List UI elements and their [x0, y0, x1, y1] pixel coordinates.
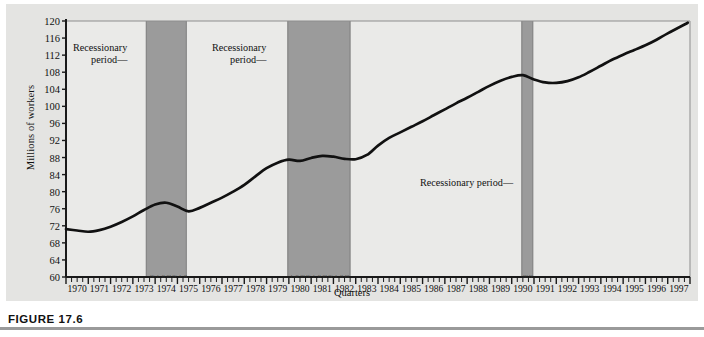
recession-annotation-2-line-2: period— [212, 54, 266, 66]
recession-annotation-2-line-1: Recessionary [212, 42, 266, 54]
bottom-rule [0, 327, 704, 330]
y-axis-title: Millions of workers [25, 58, 36, 198]
quarter-mark-2-2: III [337, 275, 357, 279]
figure-container: 12011611210810410096928884807672686460 1… [0, 0, 704, 337]
quarter-mark-1-1: II [176, 275, 196, 279]
recession-annotation-3: Recessionary period— [420, 177, 513, 189]
recession-annotation-1-line-1: Recessionary [73, 42, 127, 54]
recession-annotation-3-line-1: Recessionary period— [420, 177, 513, 189]
recession-annotation-1: Recessionaryperiod— [73, 42, 127, 66]
recession-annotation-2: Recessionaryperiod— [212, 42, 266, 66]
recession-annotation-1-line-2: period— [73, 54, 127, 66]
quarter-mark-3-3: IV [521, 275, 541, 279]
chart-panel: 12011611210810410096928884807672686460 1… [6, 4, 698, 301]
figure-caption: FIGURE 17.6 [8, 313, 83, 325]
x-axis-title: Quarters [6, 287, 698, 298]
